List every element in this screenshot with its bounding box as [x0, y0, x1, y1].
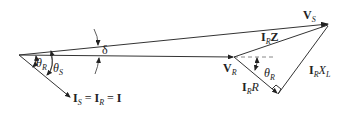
label-vs: VS	[303, 9, 316, 24]
label-irz: IRZ	[261, 31, 279, 46]
delta-arrow-bottom	[95, 58, 99, 74]
irxl-phasor	[278, 26, 328, 94]
label-theta-s: θS	[53, 62, 63, 77]
irz-phasor	[234, 25, 328, 57]
phasor-lines	[0, 0, 348, 114]
label-irxl: IRXL	[309, 64, 330, 79]
label-theta-r2: θR	[264, 67, 275, 82]
label-vr: VR	[223, 62, 237, 77]
label-theta-r: θR	[36, 57, 47, 72]
label-irr: IRR	[242, 81, 259, 96]
vs-phasor	[19, 24, 328, 55]
phasor-diagram: VS IRZ VR θR IRR IRXL δ θR θS IS = IR = …	[0, 0, 348, 114]
theta-s-arc	[48, 51, 52, 75]
label-delta: δ	[102, 44, 108, 56]
label-current: IS = IR = I	[73, 92, 121, 107]
delta-arrow-top	[94, 29, 98, 45]
